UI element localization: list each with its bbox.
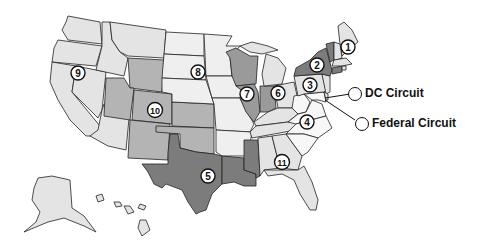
svg-text:11: 11 [277,158,287,168]
federal-pointer-line [325,100,355,120]
svg-text:9: 9 [75,68,81,79]
svg-text:2: 2 [314,60,320,71]
state-wy [128,58,164,92]
circuit-badge-11[interactable]: 11 [275,155,290,170]
federal-circuit-marker[interactable] [355,117,369,131]
state-fl [264,166,318,210]
svg-text:1: 1 [345,42,351,53]
svg-text:5: 5 [205,171,211,182]
circuit-badge-5[interactable]: 5 [201,169,215,183]
svg-text:7: 7 [244,89,250,100]
state-mi-lower [262,54,286,86]
svg-text:10: 10 [150,106,160,116]
state-wa [62,16,102,44]
svg-text:4: 4 [304,117,310,128]
circuit-badge-7[interactable]: 7 [240,87,254,101]
svg-text:8: 8 [195,67,201,78]
svg-text:6: 6 [275,88,281,99]
state-ct [332,66,342,74]
state-hi-4 [138,204,146,210]
state-ks [172,102,214,128]
state-or [52,40,102,66]
svg-text:3: 3 [307,80,313,91]
circuit-badge-4[interactable]: 4 [300,115,314,129]
state-hi-3 [124,206,134,214]
state-hi-1 [96,194,104,202]
circuit-badge-3[interactable]: 3 [303,78,317,92]
state-hi-5 [138,220,150,236]
circuit-badge-2[interactable]: 2 [310,58,324,72]
circuit-badge-6[interactable]: 6 [271,86,285,100]
dc-circuit-marker[interactable] [348,87,362,101]
state-ak [24,176,96,232]
circuit-badge-10[interactable]: 10 [148,103,163,118]
state-nd [164,32,204,56]
state-ri [342,66,346,70]
state-hi-2 [114,202,122,207]
circuit-badge-9[interactable]: 9 [71,66,85,80]
federal-circuit-label[interactable]: Federal Circuit [372,116,456,130]
dc-pointer-line [325,94,350,98]
circuit-badge-8[interactable]: 8 [191,65,205,79]
dc-circuit-label[interactable]: DC Circuit [365,86,424,100]
state-mi-upper [240,42,278,54]
circuit-badge-1[interactable]: 1 [341,40,355,54]
